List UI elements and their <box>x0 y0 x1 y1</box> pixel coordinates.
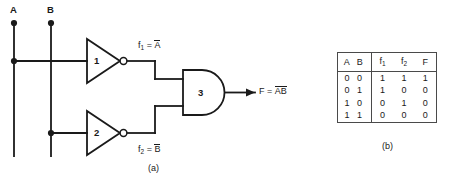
caption-a: (a) <box>148 164 159 173</box>
cell-ab: 0 1 <box>338 85 371 97</box>
cell-F: 0 <box>415 97 436 109</box>
cell-f1: 1 <box>371 85 393 97</box>
header-f1: f1 <box>371 53 393 72</box>
cell-ab: 1 0 <box>338 97 371 109</box>
gate-number-3: 3 <box>198 88 203 98</box>
terminal-dot-b <box>48 20 54 26</box>
truth-table-header: A B f1 f2 F <box>338 53 436 72</box>
truth-table-body: 0 0 1 1 1 0 1 1 0 0 1 0 0 1 0 <box>338 72 436 123</box>
inverter1-triangle <box>87 39 120 83</box>
figure-container: A B 1 2 3 f1 = A f2 = B F = AB (a) (b) A… <box>0 0 450 183</box>
and-gate-body <box>183 70 225 115</box>
cell-f1: 0 <box>371 109 393 122</box>
gate-number-1: 1 <box>94 56 99 66</box>
inverter1-bubble <box>120 58 127 65</box>
signal-label-f1: f1 = A <box>138 40 160 52</box>
cell-f1: 1 <box>371 72 393 85</box>
cell-F: 1 <box>415 72 436 85</box>
cell-f2: 0 <box>393 85 414 97</box>
f1-subscript: 1 <box>141 44 145 51</box>
output-symbol: F <box>259 86 265 96</box>
f1-value-negated: A <box>154 40 160 50</box>
table-row: 0 0 1 1 1 <box>338 72 436 85</box>
input-label-b: B <box>47 5 54 15</box>
cell-F: 0 <box>415 85 436 97</box>
cell-f2: 1 <box>393 97 414 109</box>
gate-number-2: 2 <box>94 128 99 138</box>
input-label-a: A <box>10 5 17 15</box>
f2-value-negated: B <box>154 144 160 154</box>
header-F: F <box>415 53 436 72</box>
output-equals: = <box>267 86 272 96</box>
truth-table-grid: A B f1 f2 F 0 0 1 1 1 0 1 1 0 0 <box>338 53 436 122</box>
f2-subscript: 2 <box>141 148 145 155</box>
cell-ab: 1 1 <box>338 109 371 122</box>
truth-table: A B f1 f2 F 0 0 1 1 1 0 1 1 0 0 <box>337 52 437 123</box>
inverter2-bubble <box>120 130 127 137</box>
output-term-b-negated: B <box>281 86 287 96</box>
table-row: 1 0 0 1 0 <box>338 97 436 109</box>
caption-b: (b) <box>382 142 393 151</box>
cell-F: 0 <box>415 109 436 122</box>
cell-f2: 1 <box>393 72 414 85</box>
f2-equals: = <box>147 144 152 154</box>
cell-f2: 0 <box>393 109 414 122</box>
terminal-dot-a <box>11 20 17 26</box>
f1-equals: = <box>147 40 152 50</box>
cell-ab: 0 0 <box>338 72 371 85</box>
header-ab: A B <box>338 53 371 72</box>
header-f2: f2 <box>393 53 414 72</box>
cell-f1: 0 <box>371 97 393 109</box>
table-row: 0 1 1 0 0 <box>338 85 436 97</box>
table-header-row: A B f1 f2 F <box>338 53 436 72</box>
junction-dot-a <box>11 58 17 64</box>
table-row: 1 1 0 0 0 <box>338 109 436 122</box>
output-arrowhead <box>246 88 255 96</box>
signal-label-f2: f2 = B <box>138 144 160 156</box>
inverter2-triangle <box>87 111 120 155</box>
signal-label-output: F = AB <box>259 86 287 96</box>
junction-dot-b <box>48 130 54 136</box>
